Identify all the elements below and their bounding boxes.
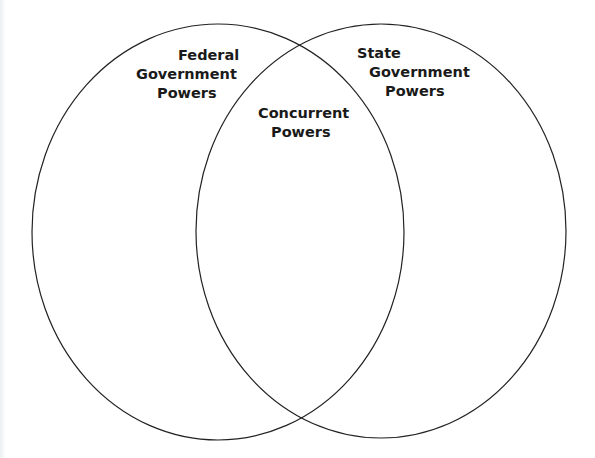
state-label-line-1: State — [356, 44, 466, 63]
federal-label-line-3: Powers — [128, 84, 238, 103]
concurrent-label-line-2: Powers — [256, 123, 346, 142]
state-label-line-2: Government — [356, 63, 466, 82]
concurrent-label-line-1: Concurrent — [256, 104, 346, 123]
state-label-line-3: Powers — [356, 82, 466, 101]
federal-powers-label: Federal Government Powers — [128, 46, 238, 103]
venn-diagram — [0, 0, 595, 458]
federal-label-line-2: Government — [128, 65, 238, 84]
federal-label-line-1: Federal — [128, 46, 238, 65]
concurrent-powers-label: Concurrent Powers — [256, 104, 346, 142]
state-powers-label: State Government Powers — [356, 44, 466, 101]
